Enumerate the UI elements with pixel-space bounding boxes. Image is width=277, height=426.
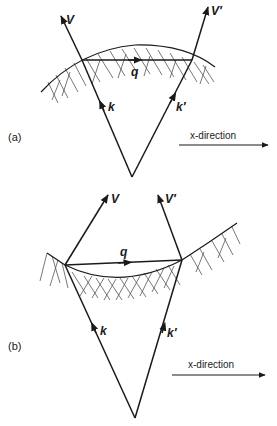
panel-a: V V′ q k k′ (a) x-direction — [8, 4, 268, 177]
V-label-a: V — [66, 13, 75, 27]
x-direction-label-a: x-direction — [190, 130, 236, 141]
panel-label-b: (b) — [8, 340, 21, 352]
x-direction-label-b: x-direction — [188, 359, 234, 370]
V-label-b: V — [111, 192, 120, 206]
k-prime-label-a: k′ — [176, 100, 187, 114]
q-label-b: q — [120, 245, 128, 259]
panel-b: V V′ q k k′ (b) x-direction — [8, 192, 265, 418]
k-vector-b — [65, 265, 135, 418]
k-prime-label-b: k′ — [167, 326, 178, 340]
hatched-region-b — [40, 227, 240, 300]
V-prime-vector-a — [192, 7, 208, 60]
k-prime-vector-a — [132, 60, 192, 177]
dispersion-curve-b — [47, 223, 237, 277]
V-vector-b — [65, 195, 108, 265]
V-prime-label-b: V′ — [165, 192, 177, 206]
diagram-canvas: V V′ q k k′ (a) x-direction — [0, 0, 277, 426]
k-label-b: k — [100, 324, 108, 338]
k-label-a: k — [108, 100, 116, 114]
panel-label-a: (a) — [8, 131, 21, 143]
q-label-a: q — [131, 65, 139, 79]
V-prime-label-a: V′ — [211, 4, 223, 18]
k-vector-a — [82, 60, 132, 177]
